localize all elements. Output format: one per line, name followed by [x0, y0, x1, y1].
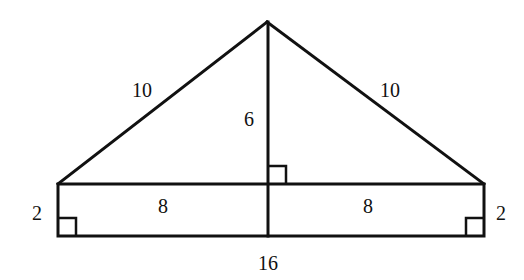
right-angle-marker-bottom-left — [58, 218, 76, 236]
label-left-half-base: 8 — [158, 195, 168, 217]
label-right-half-base: 8 — [363, 195, 373, 217]
label-altitude: 6 — [244, 108, 254, 130]
label-bottom-length: 16 — [258, 252, 278, 274]
right-angle-marker-bottom-right — [466, 218, 484, 236]
base-rectangle — [58, 184, 484, 236]
label-right-hypotenuse: 10 — [380, 79, 400, 101]
label-left-hypotenuse: 10 — [132, 79, 152, 101]
geometry-diagram: 10 10 6 8 8 2 2 16 — [0, 0, 524, 280]
label-right-height: 2 — [496, 202, 506, 224]
right-angle-marker-altitude — [268, 166, 286, 184]
right-hypotenuse-edge — [267, 22, 484, 184]
left-hypotenuse-edge — [58, 22, 267, 184]
label-left-height: 2 — [32, 202, 42, 224]
